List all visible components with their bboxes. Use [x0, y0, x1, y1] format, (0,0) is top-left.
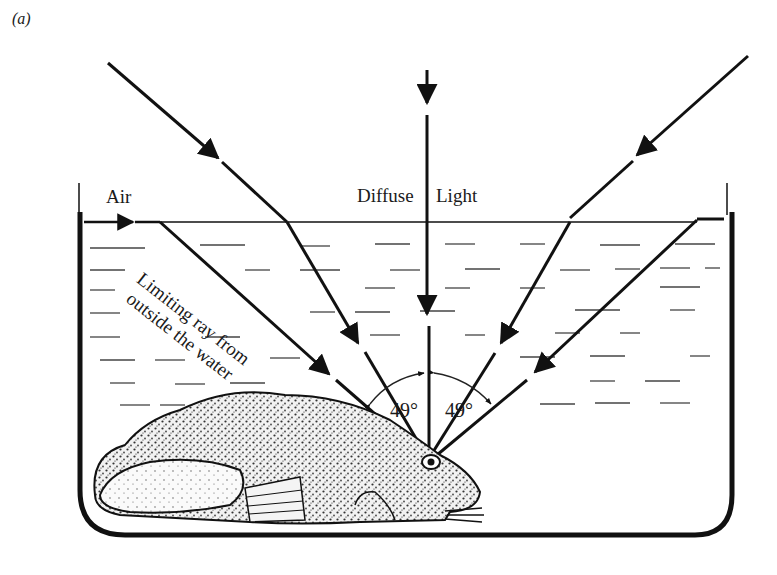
light-rays — [108, 56, 748, 222]
refraction-diagram — [0, 0, 777, 575]
panel-label: (a) — [12, 10, 31, 28]
angle-left-label: 49° — [390, 399, 418, 422]
frog-eye — [422, 455, 440, 469]
air-label: Air — [106, 186, 131, 208]
diffuse-label: Diffuse — [357, 185, 414, 207]
light-label: Light — [436, 185, 477, 207]
water-surface — [84, 219, 724, 222]
angle-right-label: 49° — [445, 399, 473, 422]
